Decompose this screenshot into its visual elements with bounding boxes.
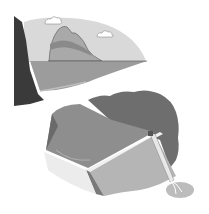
spillway-gate	[148, 131, 153, 136]
illustration	[0, 0, 209, 214]
lake	[30, 61, 147, 91]
dam-reservoir-panel	[44, 90, 194, 198]
outflow-splash	[166, 182, 194, 198]
